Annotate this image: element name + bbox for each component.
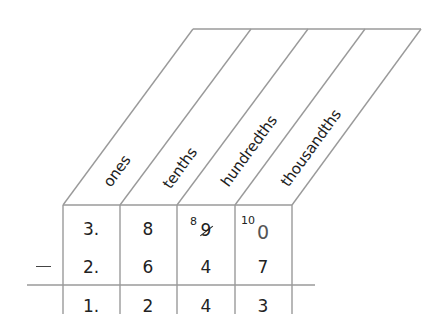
difference-hundredths: 4: [201, 298, 212, 315]
minuend-hundredths-crossed: 9: [201, 222, 212, 239]
slant-line-3: [235, 29, 365, 205]
subtrahend-ones: 2.: [83, 259, 99, 276]
subtrahend-thousandths: 7: [258, 259, 269, 276]
minus-sign: [36, 266, 51, 267]
regroup-thousandths-superscript: 10: [241, 215, 255, 226]
crossed-out-digit: 9: [201, 222, 212, 239]
subtrahend-hundredths: 4: [201, 259, 212, 276]
difference-ones: 1.: [83, 298, 99, 315]
minuend-tenths: 8: [143, 221, 154, 238]
difference-tenths: 2: [143, 298, 154, 315]
regroup-hundredths-superscript: 8: [190, 216, 197, 227]
place-value-chart: ones tenths hundredths thousandths 3. 8 …: [0, 0, 440, 330]
minuend-thousandths: 0: [257, 223, 269, 242]
chart-grid: [0, 0, 440, 330]
subtrahend-tenths: 6: [143, 259, 154, 276]
minuend-ones: 3.: [83, 221, 99, 238]
slant-line-4: [292, 29, 421, 205]
difference-thousandths: 3: [258, 298, 269, 315]
